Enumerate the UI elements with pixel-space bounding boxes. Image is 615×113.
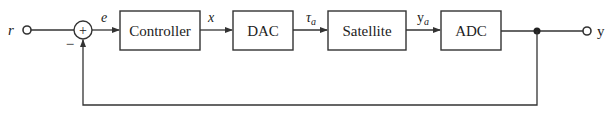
satellite-label: Satellite: [342, 23, 391, 39]
dac-label: DAC: [247, 23, 279, 39]
controller-block: Controller: [120, 11, 200, 50]
adc-block: ADC: [441, 11, 501, 50]
block-diagram: r + − e Controller x DAC τa Satellite ya…: [0, 0, 615, 113]
controller-label: Controller: [129, 23, 191, 39]
plus-sign: +: [79, 23, 87, 38]
input-label: r: [8, 22, 14, 38]
signal-x-label: x: [207, 10, 215, 25]
output-label: y: [597, 23, 605, 39]
satellite-block: Satellite: [328, 11, 406, 50]
signal-e-label: e: [101, 10, 107, 25]
signal-tau-a-label: τa: [306, 10, 316, 27]
output-terminal: [583, 27, 591, 35]
minus-sign: −: [66, 36, 74, 52]
dac-block: DAC: [233, 11, 293, 50]
signal-y-a-label: ya: [417, 10, 429, 27]
input-terminal: [23, 26, 31, 34]
summing-junction: +: [74, 21, 92, 39]
adc-label: ADC: [455, 23, 487, 39]
